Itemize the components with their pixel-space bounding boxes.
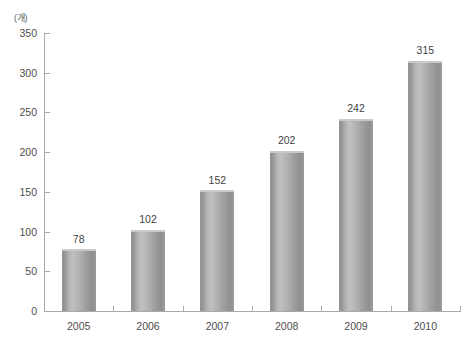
bar: 102 xyxy=(131,230,165,311)
bar-top-cap xyxy=(200,190,234,192)
bar: 78 xyxy=(62,249,96,311)
y-axis-label: 50 xyxy=(25,266,37,277)
bar-value-label: 152 xyxy=(209,175,227,186)
bar-top-cap xyxy=(339,119,373,121)
bar-top-cap xyxy=(270,151,304,153)
y-axis-label: 250 xyxy=(19,107,37,118)
y-axis-tick xyxy=(45,232,50,233)
x-axis-line xyxy=(44,311,461,312)
bar: 242 xyxy=(339,119,373,311)
y-axis-tick xyxy=(45,271,50,272)
bar: 315 xyxy=(408,61,442,311)
x-axis-label: 2008 xyxy=(275,321,298,332)
y-axis-tick xyxy=(45,33,50,34)
bar-value-label: 78 xyxy=(73,234,85,245)
x-axis-tick xyxy=(183,306,184,311)
x-axis-label: 2007 xyxy=(206,321,229,332)
x-axis-label: 2006 xyxy=(136,321,159,332)
y-axis-tick xyxy=(45,112,50,113)
bar-top-cap xyxy=(62,249,96,251)
y-axis-label: 300 xyxy=(19,67,37,78)
bar: 202 xyxy=(270,151,304,311)
x-axis-label: 2010 xyxy=(414,321,437,332)
bar: 152 xyxy=(200,190,234,311)
bar-top-cap xyxy=(408,61,442,63)
y-axis-tick xyxy=(45,152,50,153)
x-axis-tick xyxy=(391,306,392,311)
bar-value-label: 315 xyxy=(417,45,435,56)
y-axis-line xyxy=(44,33,45,311)
x-axis-label: 2005 xyxy=(67,321,90,332)
x-axis-label: 2009 xyxy=(344,321,367,332)
bar-value-label: 202 xyxy=(278,135,296,146)
y-axis-label: 150 xyxy=(19,187,37,198)
y-axis-label: 350 xyxy=(19,28,37,39)
x-axis-tick xyxy=(113,306,114,311)
bar-value-label: 102 xyxy=(139,214,157,225)
x-axis-tick xyxy=(321,306,322,311)
y-axis-tick xyxy=(45,192,50,193)
y-axis-label: 0 xyxy=(31,306,37,317)
y-axis-label: 100 xyxy=(19,226,37,237)
bar-top-cap xyxy=(131,230,165,232)
y-axis-tick xyxy=(45,73,50,74)
plot-area: 050100150200250300350 78102152202242315 … xyxy=(44,33,460,311)
bar-chart: (개) 050100150200250300350 78102152202242… xyxy=(0,0,475,347)
y-axis-label: 200 xyxy=(19,147,37,158)
y-axis-tick xyxy=(45,311,50,312)
bar-value-label: 242 xyxy=(347,103,365,114)
x-axis-tick xyxy=(460,306,461,311)
y-axis-unit-label: (개) xyxy=(14,11,27,24)
x-axis-tick xyxy=(252,306,253,311)
